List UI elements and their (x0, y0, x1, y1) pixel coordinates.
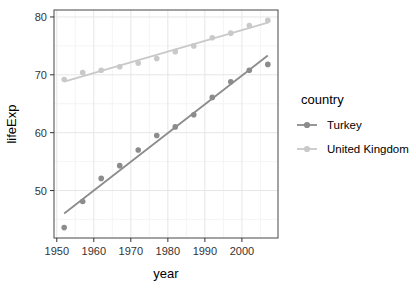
data-point-1 (265, 18, 271, 24)
y-axis-title: lifeExp (4, 104, 19, 143)
data-point-0 (80, 199, 86, 205)
data-point-0 (61, 225, 67, 231)
panel-background (54, 10, 278, 238)
data-point-0 (135, 147, 141, 153)
data-point-1 (135, 60, 141, 66)
data-point-0 (98, 176, 104, 182)
legend: country Turkey United Kingdom (296, 92, 414, 165)
legend-title: country (301, 92, 414, 107)
legend-item-united-kingdom: United Kingdom (296, 141, 414, 157)
x-tick-label: 1980 (156, 245, 180, 257)
data-point-0 (172, 124, 178, 130)
data-point-1 (247, 23, 253, 29)
y-tick-label: 50 (35, 185, 47, 197)
legend-item-turkey: Turkey (296, 117, 414, 133)
data-point-0 (247, 67, 253, 73)
data-point-1 (117, 64, 123, 70)
legend-label-united-kingdom: United Kingdom (327, 143, 409, 155)
data-point-0 (191, 112, 197, 118)
data-point-1 (80, 70, 86, 76)
data-point-0 (265, 62, 271, 68)
data-point-0 (154, 133, 160, 139)
x-axis-title: year (153, 266, 179, 281)
data-point-1 (209, 35, 215, 41)
x-tick-label: 1970 (119, 245, 143, 257)
data-point-0 (228, 79, 234, 85)
y-tick-label: 60 (35, 127, 47, 139)
data-point-1 (191, 43, 197, 49)
y-tick-label: 80 (35, 11, 47, 23)
data-point-0 (209, 95, 215, 101)
legend-key-united-kingdom-icon (296, 142, 318, 156)
data-point-1 (61, 77, 67, 83)
x-tick-label: 1960 (82, 245, 106, 257)
figure: 19501960197019801990200050607080yearlife… (0, 0, 416, 292)
legend-key-turkey-icon (296, 118, 318, 132)
data-point-0 (117, 163, 123, 169)
data-point-1 (228, 30, 234, 36)
y-tick-label: 70 (35, 69, 47, 81)
x-tick-label: 2000 (230, 245, 254, 257)
legend-label-turkey: Turkey (327, 119, 362, 131)
data-point-1 (172, 49, 178, 55)
data-point-1 (154, 56, 160, 62)
data-point-1 (98, 67, 104, 73)
x-tick-label: 1950 (45, 245, 69, 257)
x-tick-label: 1990 (193, 245, 217, 257)
